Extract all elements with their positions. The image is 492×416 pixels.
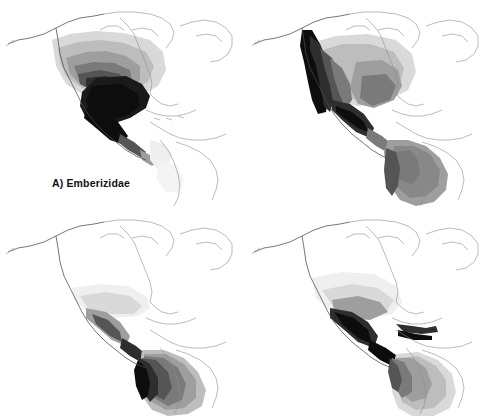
map-tyrannidae [0, 208, 246, 416]
figure-root: A) Emberizidae [0, 0, 492, 416]
panel-a-label: A) Emberizidae [52, 177, 130, 189]
panel-b-turdidae: B) Turdidae [246, 0, 492, 208]
panel-d-parulidae: D) Parulidae [246, 208, 492, 416]
map-parulidae [246, 208, 492, 416]
map-turdidae [246, 0, 492, 208]
panel-a-emberizidae: A) Emberizidae [0, 0, 246, 208]
panel-c-tyrannidae: C) Tyrannidae [0, 208, 246, 416]
